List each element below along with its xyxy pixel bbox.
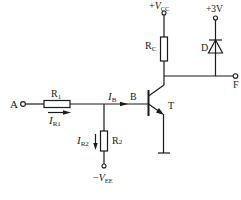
v3-node [214, 16, 218, 20]
rc-label: RC [145, 40, 157, 53]
terminal-a-node [21, 102, 26, 107]
ir2-arrow-icon [93, 143, 97, 150]
r1-label: R1 [51, 88, 62, 101]
circuit-diagram: A R1 IR1 R2 −VEE IR2 IB B T +VCC RC F +3… [0, 0, 241, 200]
resistor-rc [161, 37, 168, 61]
r2-label: R2 [112, 135, 123, 146]
terminal-a-label: A [10, 98, 18, 110]
vee-label: −VEE [93, 172, 113, 184]
vcc-label: +VCC [149, 0, 169, 12]
resistor-r2 [101, 131, 108, 151]
terminal-f-label: F [233, 79, 239, 90]
ir2-label: IR2 [76, 134, 89, 148]
base-label: B [130, 91, 137, 102]
vcc-node [162, 11, 166, 15]
ib-arrow-icon [120, 102, 128, 106]
emitter-arrow-icon [156, 108, 164, 115]
diode-label: D [201, 42, 208, 53]
terminal-f-node [233, 74, 238, 79]
vee-node [102, 164, 106, 168]
transistor-label: T [168, 100, 174, 111]
ib-label: IB [107, 90, 117, 104]
ir1-arrow-icon [63, 110, 71, 114]
transistor-collector [149, 85, 165, 96]
v3-label: +3V [206, 4, 223, 14]
resistor-r1 [44, 101, 70, 108]
ir1-label: IR1 [48, 114, 61, 128]
